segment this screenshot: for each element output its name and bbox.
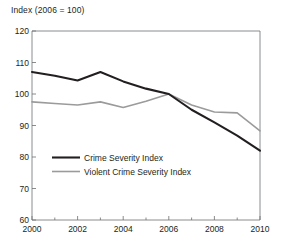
chart-plot-area: 120 110 100 90 80 70 60 2000 2002 200 [0,0,281,249]
legend-label-violent-crime-severity-index: Violent Crime Severity Index [84,167,192,177]
y-tick-label: 80 [20,152,30,162]
x-tick-label: 2008 [205,224,224,234]
y-tick-label: 90 [20,121,30,131]
series-line-violent-crime-severity-index [32,94,260,131]
x-tick-label: 2002 [68,224,87,234]
x-tick-label: 2000 [23,224,42,234]
series-line-crime-severity-index [32,72,260,151]
crime-severity-index-chart: Index (2006 = 100) 120 110 100 90 80 70 [0,0,281,249]
x-axis-labels: 2000 2002 2004 2006 2008 2010 [23,224,270,234]
chart-legend: Crime Severity Index Violent Crime Sever… [52,153,192,177]
y-tick-label: 120 [15,26,29,36]
y-tick-label: 70 [20,184,30,194]
x-tick-label: 2004 [114,224,133,234]
y-tick-label: 100 [15,89,29,99]
legend-label-crime-severity-index: Crime Severity Index [84,153,164,163]
x-tick-label: 2006 [159,224,178,234]
y-axis-ticks [32,31,36,220]
y-axis-labels: 120 110 100 90 80 70 60 [15,26,29,225]
axis-frame [32,31,260,220]
x-axis-ticks [32,216,260,220]
x-tick-label: 2010 [251,224,270,234]
y-tick-label: 110 [15,58,29,68]
